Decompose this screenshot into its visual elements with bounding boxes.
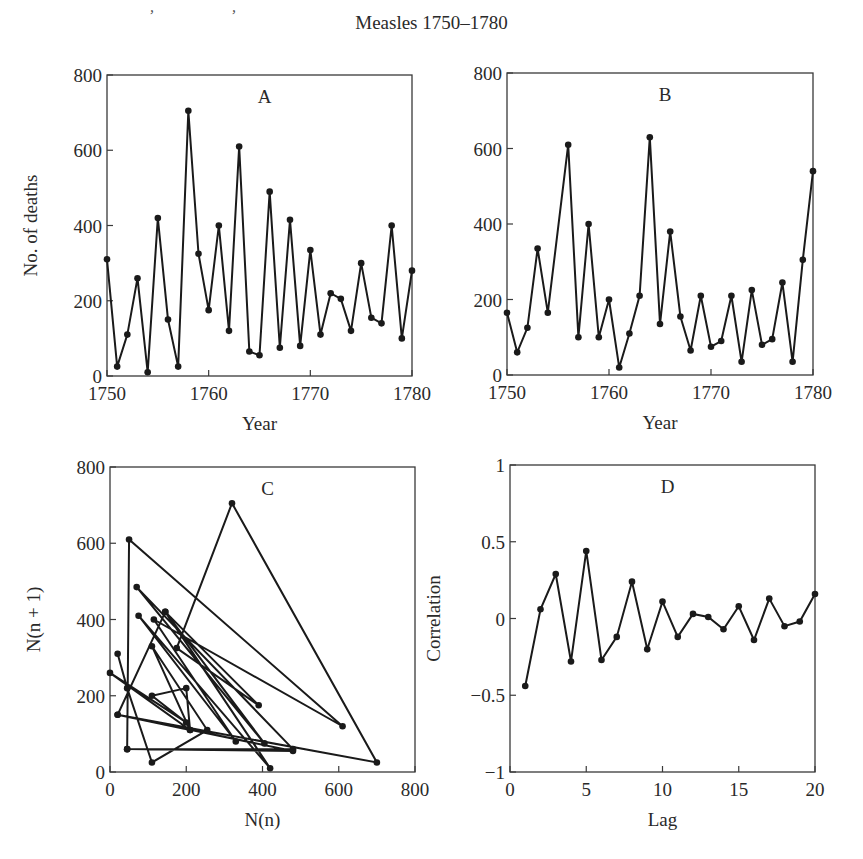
data-point: [812, 591, 819, 598]
y-tick-label: 0: [96, 762, 106, 783]
data-point: [769, 336, 776, 343]
plot-frame: [107, 75, 412, 376]
y-tick-label: 600: [77, 533, 106, 554]
data-point: [735, 603, 742, 610]
x-tick-label: 0: [105, 779, 115, 800]
data-point: [636, 292, 643, 299]
y-tick-label: 200: [74, 291, 103, 312]
data-point: [226, 328, 233, 335]
y-axis-label: Correlation: [423, 575, 444, 662]
x-tick-label: 1780: [794, 382, 832, 403]
panel-d-autocorrelation: 05101520−1−0.500.51DLagCorrelation: [423, 455, 825, 830]
data-point: [135, 612, 142, 619]
x-tick-label: 1760: [590, 382, 628, 403]
data-point: [348, 328, 355, 335]
x-tick-label: 10: [653, 779, 672, 800]
data-point: [781, 623, 788, 630]
data-point: [565, 141, 572, 148]
panel-label: C: [261, 478, 274, 499]
x-tick-label: 1780: [393, 383, 431, 404]
data-point: [514, 349, 521, 356]
data-point: [796, 618, 803, 625]
data-point: [256, 352, 263, 359]
data-point: [173, 645, 180, 652]
data-point: [687, 347, 694, 354]
data-point: [236, 143, 243, 150]
data-point: [705, 614, 712, 621]
data-point: [205, 307, 212, 314]
data-point: [149, 643, 156, 650]
data-point: [626, 330, 633, 337]
data-point: [307, 247, 314, 254]
data-point: [185, 107, 192, 114]
data-point: [290, 746, 297, 753]
data-point: [583, 548, 590, 555]
y-tick-label: 0: [93, 366, 103, 387]
data-point: [759, 342, 766, 349]
data-point: [187, 727, 194, 734]
data-point: [647, 134, 654, 141]
panel-b-deaths-by-year: 17501760177017800200400600800BYear: [474, 63, 833, 433]
data-point: [409, 267, 416, 274]
data-point: [162, 609, 169, 616]
data-point: [690, 611, 697, 618]
data-point: [338, 296, 345, 303]
x-tick-label: 1760: [190, 383, 228, 404]
data-point: [657, 321, 664, 328]
y-tick-label: 600: [474, 139, 503, 160]
data-point: [659, 598, 666, 605]
y-axis-label: N(n + 1): [23, 587, 45, 653]
y-tick-label: 0: [493, 365, 503, 386]
data-point: [644, 646, 651, 653]
data-point: [629, 578, 636, 585]
data-point: [124, 746, 131, 753]
data-point: [616, 364, 623, 371]
data-point: [204, 727, 211, 734]
data-point: [585, 221, 592, 228]
data-point: [720, 626, 727, 633]
x-tick-label: 1770: [692, 382, 730, 403]
data-point: [674, 634, 681, 641]
data-point: [114, 712, 121, 719]
data-point: [216, 222, 223, 229]
data-point: [545, 309, 552, 316]
x-axis-label: Year: [642, 412, 678, 433]
x-tick-label: 5: [582, 779, 592, 800]
x-tick-label: 1770: [291, 383, 329, 404]
data-point: [677, 313, 684, 320]
data-point: [155, 215, 162, 222]
data-point: [149, 692, 156, 699]
data-point: [779, 279, 786, 286]
data-point: [267, 765, 274, 772]
data-point: [552, 571, 559, 578]
x-tick-label: 0: [505, 779, 515, 800]
y-tick-label: 800: [77, 457, 106, 478]
data-point: [738, 358, 745, 365]
y-tick-label: 200: [77, 686, 106, 707]
data-point: [751, 637, 758, 644]
data-point: [534, 245, 541, 252]
data-point: [596, 334, 603, 341]
x-tick-label: 800: [401, 779, 430, 800]
panel-label: B: [659, 84, 672, 105]
data-point: [698, 292, 705, 299]
data-point: [667, 228, 674, 235]
y-tick-label: 800: [474, 63, 503, 84]
data-line: [507, 137, 813, 367]
data-point: [183, 685, 190, 692]
data-point: [246, 348, 253, 355]
data-point: [522, 683, 529, 690]
y-tick-label: 0.5: [481, 532, 505, 553]
y-tick-label: 0: [496, 609, 506, 630]
y-tick-label: 600: [74, 140, 103, 161]
data-point: [575, 334, 582, 341]
data-point: [124, 685, 131, 692]
x-axis-label: Year: [242, 413, 278, 434]
data-point: [114, 651, 121, 658]
panel-label: A: [258, 86, 272, 107]
data-point: [165, 316, 172, 323]
y-tick-label: 400: [77, 610, 106, 631]
data-point: [126, 536, 133, 543]
data-point: [399, 335, 406, 342]
y-axis-label: No. of deaths: [20, 175, 41, 277]
